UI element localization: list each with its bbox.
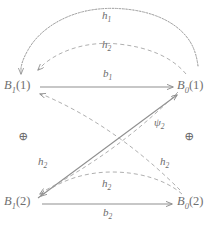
circled-plus-icon-left: ⊕	[18, 130, 28, 142]
edge-label-h2-right: h2	[160, 156, 169, 170]
edge-label-h2-lower: h2	[102, 178, 111, 192]
edge-subscript: 2	[161, 122, 165, 131]
edge-label-h2-left: h2	[38, 156, 47, 170]
edge-subscript: 1	[108, 15, 112, 24]
node-base: B	[177, 194, 185, 208]
node-label-B1-1: B1(1)	[4, 79, 30, 94]
node-label-B0-1: B0(1)	[177, 79, 203, 94]
edge-label-h2-top: h2	[102, 39, 111, 53]
signal-flow-diagram: B1(1) B0(1) B1(2) B0(2) h1 h2 b1 ψ2 h2 h…	[0, 0, 216, 230]
node-base: B	[4, 194, 12, 208]
node-label-B1-2: B1(2)	[4, 195, 30, 210]
circled-plus-icon-right: ⊕	[184, 130, 194, 142]
edge-base: ψ	[154, 116, 161, 128]
edge-label-psi2: ψ2	[154, 117, 165, 131]
edge-subscript: 1	[109, 73, 113, 82]
node-base: B	[177, 78, 185, 92]
edge-subscript: 2	[166, 161, 170, 170]
edge-label-h1: h1	[102, 10, 111, 24]
node-base: B	[4, 78, 12, 92]
edge-h2-lower-dashed-arc	[41, 172, 182, 196]
node-argument: (2)	[16, 194, 31, 208]
edge-subscript: 2	[44, 161, 48, 170]
edge-label-b2: b2	[103, 207, 112, 221]
edge-subscript: 2	[108, 44, 112, 53]
edge-subscript: 2	[109, 212, 113, 221]
node-argument: (2)	[189, 194, 204, 208]
node-label-B0-2: B0(2)	[177, 195, 203, 210]
edge-subscript: 2	[108, 183, 112, 192]
node-argument: (1)	[16, 78, 31, 92]
node-argument: (1)	[189, 78, 204, 92]
edge-label-b1: b1	[103, 68, 112, 82]
